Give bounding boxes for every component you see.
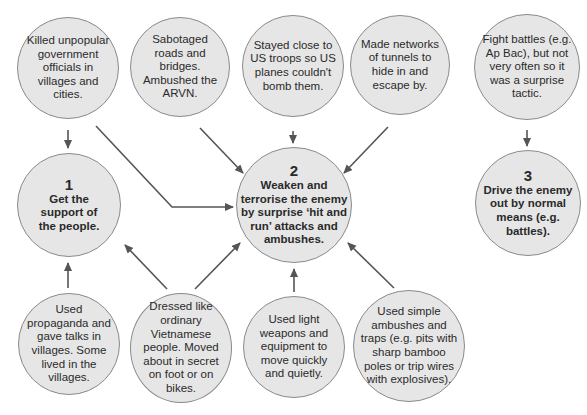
arrow-t2-to-k2 (200, 128, 243, 173)
node-t3-text: Stayed close to US troops so US planes c… (243, 39, 343, 93)
node-k2: 2 Weaken and terrorise the enemy by surp… (236, 147, 352, 263)
node-b2: Dressed like ordinary Vietnamese people.… (130, 293, 232, 403)
node-k3: 3 Drive the enemy out by normal means (e… (475, 150, 581, 256)
node-t1-text: Killed unpopular government officials in… (18, 34, 118, 102)
node-b2-text: Dressed like ordinary Vietnamese people.… (131, 300, 231, 395)
arrow-b4-to-k2 (348, 243, 394, 288)
node-k3-number: 3 (524, 168, 532, 184)
node-t5-text: Fight battles (e.g. Ap Bac), but not ver… (475, 33, 579, 101)
node-t2-text: Sabotaged roads and bridges. Ambushed th… (131, 33, 229, 101)
node-b1: Used propaganda and gave talks in villag… (18, 293, 120, 395)
node-k2-text: Weaken and terrorise the enemy by surpri… (237, 179, 351, 247)
node-b4: Used simple ambushes and traps (e.g. pit… (353, 290, 465, 402)
arrow-b2-to-k2 (195, 243, 240, 289)
node-b3-text: Used light weapons and equipment to move… (244, 313, 344, 381)
node-t4: Made networks of tunnels to hide in and … (350, 15, 450, 115)
arrow-t4-to-k2 (344, 127, 388, 173)
node-k1: 1 Get the support of the people. (17, 153, 121, 257)
node-t3: Stayed close to US troops so US planes c… (242, 15, 344, 117)
node-t2: Sabotaged roads and bridges. Ambushed th… (130, 17, 230, 117)
node-t4-text: Made networks of tunnels to hide in and … (351, 38, 449, 92)
arrow-b2-to-k1 (125, 245, 167, 289)
node-b3: Used light weapons and equipment to move… (243, 296, 345, 398)
node-k1-text: Get the support of the people. (18, 193, 120, 234)
node-t1: Killed unpopular government officials in… (17, 17, 119, 119)
node-b1-text: Used propaganda and gave talks in villag… (19, 303, 119, 385)
node-b4-text: Used simple ambushes and traps (e.g. pit… (354, 305, 464, 387)
node-k1-number: 1 (65, 177, 73, 193)
node-t5: Fight battles (e.g. Ap Bac), but not ver… (474, 14, 580, 120)
node-k2-number: 2 (290, 163, 298, 179)
node-k3-text: Drive the enemy out by normal means (e.g… (476, 184, 580, 238)
